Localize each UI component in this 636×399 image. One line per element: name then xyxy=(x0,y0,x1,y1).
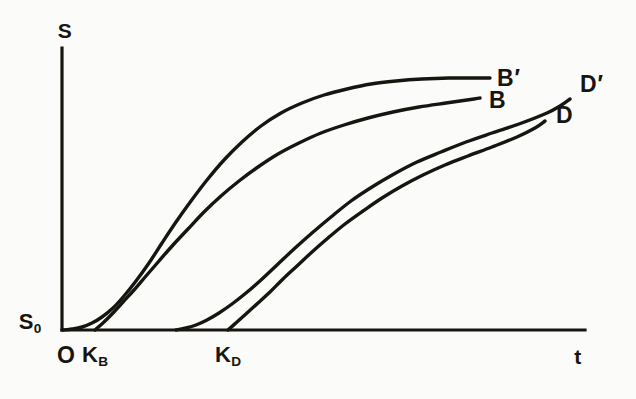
kd-subscript: D xyxy=(231,354,241,369)
x-axis-title: t xyxy=(574,346,581,367)
figure-container: S t S0 O KB KD B′ B D′ D xyxy=(0,0,636,399)
origin-label: O xyxy=(57,344,75,367)
tick-label-kd: KD xyxy=(215,344,241,366)
curves-group xyxy=(63,78,570,330)
series-label-b: B xyxy=(489,89,506,112)
kb-base: K xyxy=(82,342,98,367)
curve-D xyxy=(228,121,545,330)
curve-B xyxy=(95,98,480,330)
curve-D-prime xyxy=(176,99,570,330)
d-prime-base: D xyxy=(580,71,597,97)
series-label-d-prime: D′ xyxy=(580,73,603,96)
d-prime-mark: ′ xyxy=(597,71,603,97)
s-zero-label: S0 xyxy=(19,311,42,333)
curve-B-prime xyxy=(63,78,490,330)
b-prime-mark: ′ xyxy=(514,65,520,91)
y-axis-title: S xyxy=(58,20,72,41)
kd-base: K xyxy=(215,342,231,367)
s-zero-subscript: 0 xyxy=(34,321,42,336)
s-zero-base: S xyxy=(19,309,34,334)
series-label-d: D xyxy=(556,104,573,127)
plot-canvas xyxy=(0,0,636,399)
tick-label-kb: KB xyxy=(82,344,108,366)
kb-subscript: B xyxy=(98,354,108,369)
